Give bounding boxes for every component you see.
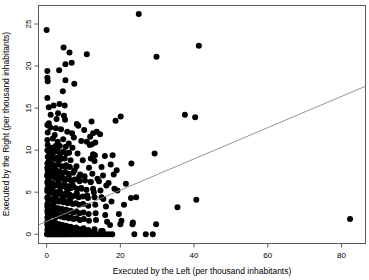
data-point — [66, 150, 72, 156]
data-point — [55, 139, 61, 145]
data-point — [53, 125, 59, 131]
data-point — [87, 134, 93, 140]
data-point — [153, 221, 159, 227]
data-point — [94, 176, 100, 182]
data-point — [45, 129, 51, 135]
data-point — [153, 54, 159, 60]
scatter-plot-figure: 020406080 0510152025 Executed by the Lef… — [0, 0, 369, 280]
data-point — [123, 181, 129, 187]
data-point — [109, 231, 115, 237]
data-point — [116, 211, 122, 217]
data-point — [74, 121, 80, 127]
data-point — [174, 204, 180, 210]
data-point — [68, 157, 74, 163]
data-point — [57, 188, 63, 194]
data-point — [196, 43, 202, 49]
data-point — [86, 218, 92, 224]
data-point — [92, 202, 98, 208]
data-point — [131, 231, 137, 237]
x-tick-label: 20 — [116, 251, 125, 260]
data-point — [150, 231, 156, 237]
data-point — [94, 129, 100, 135]
data-point — [108, 161, 114, 167]
data-point — [55, 110, 61, 116]
data-point — [78, 138, 84, 144]
data-point — [108, 198, 114, 204]
data-point — [81, 127, 87, 133]
data-point — [193, 197, 199, 203]
x-tick-label: 40 — [190, 251, 199, 260]
data-point — [64, 129, 70, 135]
data-point — [100, 172, 106, 178]
data-point — [93, 217, 99, 223]
data-point — [48, 112, 54, 118]
data-point — [48, 161, 54, 167]
data-point — [52, 166, 58, 172]
data-point — [54, 116, 60, 122]
data-point — [46, 152, 52, 158]
data-point — [114, 167, 120, 173]
data-point — [102, 153, 108, 159]
data-point — [128, 195, 134, 201]
y-axis-title: Executed by the Right (per thousand inha… — [1, 32, 11, 216]
data-point — [102, 212, 108, 218]
data-point — [62, 61, 68, 67]
y-tick-label: 10 — [24, 145, 33, 154]
data-point — [67, 196, 73, 202]
data-point — [64, 188, 70, 194]
data-point — [60, 88, 66, 94]
data-point — [48, 180, 54, 186]
x-tick-label: 0 — [44, 251, 49, 260]
data-point — [103, 204, 109, 210]
data-point — [69, 182, 75, 188]
data-point — [44, 27, 50, 33]
data-point — [56, 67, 62, 73]
y-tick-label: 20 — [24, 61, 33, 70]
data-point — [347, 216, 353, 222]
data-point — [86, 165, 92, 171]
data-point — [57, 101, 63, 107]
data-point — [182, 112, 188, 118]
data-point — [121, 202, 127, 208]
data-point — [57, 153, 63, 159]
data-point — [91, 189, 97, 195]
data-point — [45, 196, 51, 202]
data-point — [133, 194, 139, 200]
data-point — [128, 161, 134, 167]
data-point — [80, 157, 86, 163]
data-point — [192, 114, 198, 120]
data-point — [44, 227, 50, 233]
data-point — [92, 140, 98, 146]
data-point — [72, 167, 78, 173]
data-point — [66, 140, 72, 146]
y-tick-label: 0 — [24, 231, 33, 236]
data-point — [61, 45, 67, 51]
data-point — [51, 173, 57, 179]
data-point — [99, 164, 105, 170]
data-point — [87, 179, 93, 185]
y-tick-label: 25 — [24, 19, 33, 28]
data-point — [75, 151, 81, 157]
data-point — [92, 194, 98, 200]
data-point — [110, 152, 116, 158]
data-point — [82, 173, 88, 179]
data-point — [117, 221, 123, 227]
data-point — [80, 209, 86, 215]
data-point — [52, 193, 58, 199]
data-point — [45, 78, 51, 84]
x-axis-title: Executed by the Left (per thousand inhab… — [113, 266, 292, 276]
data-point — [44, 137, 50, 143]
data-point — [50, 187, 56, 193]
y-tick-label: 15 — [24, 103, 33, 112]
data-point — [69, 60, 75, 66]
data-point — [93, 210, 99, 216]
data-point — [55, 178, 61, 184]
data-point — [49, 145, 55, 151]
data-point — [61, 181, 67, 187]
data-point — [118, 114, 124, 120]
data-point — [52, 132, 58, 138]
data-point — [103, 182, 109, 188]
data-point — [46, 120, 52, 126]
data-point — [89, 119, 95, 125]
data-point — [88, 156, 94, 162]
